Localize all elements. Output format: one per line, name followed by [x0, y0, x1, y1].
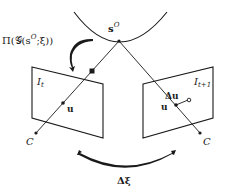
camera-right-dot — [198, 131, 201, 134]
flow-label: Δu — [165, 91, 179, 101]
surface-point-label: sO — [108, 21, 120, 34]
image-plane-right — [143, 67, 213, 138]
pixel-right-label: u — [161, 102, 168, 112]
flow-endpoint — [187, 98, 191, 102]
surface-arc — [74, 12, 167, 42]
frame-t-label: It — [36, 76, 44, 89]
camera-left-label: C — [26, 136, 34, 147]
image-plane-left — [32, 67, 103, 138]
projection-arrow — [69, 39, 93, 72]
projection-label: Π(𝒢(sO;ξ)) — [2, 33, 53, 46]
projected-point-marker — [90, 69, 95, 74]
frame-t1-label: It+1 — [193, 76, 211, 89]
projection-diagram: sO It It+1 u C u Δu C Π(𝒢(sO;ξ)) Δξ — [0, 0, 227, 194]
camera-right-label: C — [203, 136, 211, 147]
ray-right — [119, 41, 200, 133]
pose-change-label: Δξ — [117, 175, 131, 186]
ray-left — [36, 41, 119, 133]
camera-left-dot — [34, 131, 37, 134]
motion-arrow — [77, 150, 176, 168]
pixel-left-dot — [61, 101, 65, 105]
pixel-left-label: u — [67, 104, 74, 114]
